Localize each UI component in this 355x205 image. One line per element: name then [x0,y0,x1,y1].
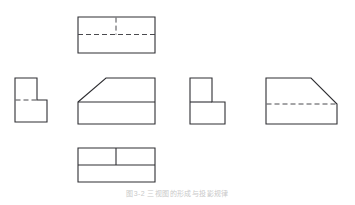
figure-caption: 图3-2 三视图的形成与投影规律 [0,189,355,199]
right-side-view [190,78,225,124]
pictorial-view-outline [266,78,337,124]
bottom-view [78,148,155,182]
top-view [78,17,155,53]
orthographic-projection-drawing [0,0,355,205]
right-side-view-outline [190,78,225,124]
front-view-outline [78,78,155,124]
pictorial-view [266,78,337,124]
left-side-view [15,78,47,122]
front-view [78,78,155,124]
drawing-sheet: 图3-2 三视图的形成与投影规律 [0,0,355,205]
